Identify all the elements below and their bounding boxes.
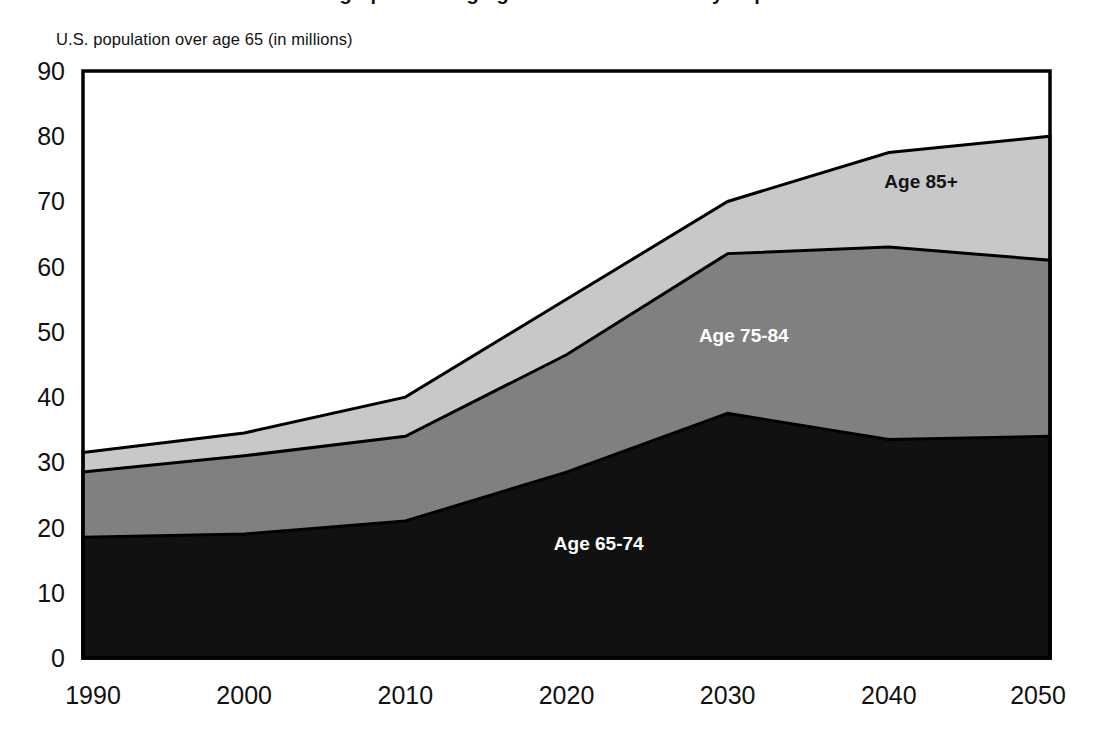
- chart-figure: Demographics of Aging: Growth of the Eld…: [0, 0, 1116, 744]
- y-tick-label: 0: [51, 644, 65, 672]
- y-tick-label: 60: [37, 253, 65, 281]
- y-tick-label: 20: [37, 514, 65, 542]
- series-label-age-85-: Age 85+: [884, 171, 957, 192]
- stacked-area-plot: 0102030405060708090 19902000201020202030…: [0, 0, 1116, 744]
- y-tick-label: 50: [37, 318, 65, 346]
- y-axis-tick-labels: 0102030405060708090: [37, 57, 65, 672]
- y-tick-label: 10: [37, 579, 65, 607]
- x-tick-label: 2020: [539, 681, 595, 709]
- series-label-age-65-74: Age 65-74: [554, 533, 644, 554]
- x-tick-label: 1990: [65, 681, 121, 709]
- x-tick-label: 2010: [378, 681, 434, 709]
- x-axis-tick-labels: 1990200020102020203020402050: [65, 681, 1066, 709]
- y-tick-label: 90: [37, 57, 65, 85]
- x-tick-label: 2040: [861, 681, 917, 709]
- x-tick-label: 2000: [216, 681, 272, 709]
- x-tick-label: 2050: [1010, 681, 1066, 709]
- y-tick-label: 40: [37, 383, 65, 411]
- x-tick-label: 2030: [700, 681, 756, 709]
- series-label-age-75-84: Age 75-84: [699, 325, 789, 346]
- y-tick-label: 70: [37, 187, 65, 215]
- y-tick-label: 80: [37, 122, 65, 150]
- y-tick-label: 30: [37, 448, 65, 476]
